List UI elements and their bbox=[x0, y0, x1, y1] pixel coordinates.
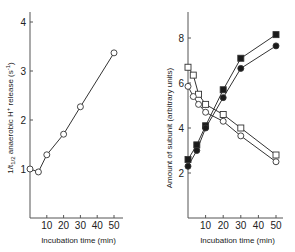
right-x-ticks: 1020304050 bbox=[200, 215, 282, 231]
x-tick-label: 30 bbox=[75, 220, 87, 231]
y-tick-label: 6 bbox=[178, 78, 184, 89]
series-line-open-square bbox=[188, 67, 276, 155]
data-point-open-circle bbox=[203, 109, 209, 115]
x-tick-label: 20 bbox=[218, 220, 230, 231]
figure: 1020304050 1234 Incubation time (min) 1/… bbox=[0, 0, 295, 252]
data-point-open-square bbox=[203, 101, 209, 107]
data-point-filled-circle bbox=[273, 43, 279, 49]
left-x-axis-label: Incubation time (min) bbox=[41, 236, 116, 245]
data-point-filled-circle bbox=[185, 163, 191, 169]
data-point-open-circle bbox=[61, 131, 67, 137]
data-point-open-circle bbox=[27, 166, 33, 172]
data-point-open-circle bbox=[220, 118, 226, 124]
y-tick-label: 2 bbox=[20, 115, 26, 126]
series-line-open-circle bbox=[30, 53, 114, 172]
y-tick-label: 1 bbox=[20, 164, 26, 175]
data-point-open-square bbox=[273, 152, 279, 158]
left-series-group bbox=[27, 50, 117, 175]
data-point-filled-circle bbox=[220, 95, 226, 101]
data-point-filled-square bbox=[220, 87, 226, 93]
left-x-ticks: 1020304050 bbox=[41, 215, 120, 231]
data-point-open-square bbox=[220, 112, 226, 118]
right-y-axis-label: Amount of subunit (arbitrary units) bbox=[165, 67, 174, 188]
data-point-filled-square bbox=[185, 157, 191, 163]
y-tick-label: 4 bbox=[178, 123, 184, 134]
x-tick-label: 10 bbox=[41, 220, 53, 231]
y-tick-label: 3 bbox=[20, 66, 26, 77]
left-panel: 1020304050 1234 Incubation time (min) 1/… bbox=[5, 12, 123, 245]
x-tick-label: 10 bbox=[200, 220, 212, 231]
left-y-axis-label: 1/t1/2 anaerobic H+ release (s-1) bbox=[5, 62, 16, 174]
ylabel-post: release (s bbox=[6, 70, 15, 107]
data-point-filled-circle bbox=[203, 125, 209, 131]
y-tick-label: 2 bbox=[178, 168, 184, 179]
data-point-open-circle bbox=[35, 169, 41, 175]
data-point-filled-circle bbox=[238, 65, 244, 71]
right-panel: 1020304050 2468 Incubation time (min) Am… bbox=[165, 12, 283, 245]
data-point-open-circle bbox=[111, 50, 117, 56]
ylabel-end: ) bbox=[6, 62, 15, 65]
y-tick-label: 4 bbox=[20, 17, 26, 28]
y-tick-label: 8 bbox=[178, 33, 184, 44]
left-y-ticks: 1234 bbox=[20, 17, 33, 175]
right-series-group bbox=[185, 32, 279, 170]
data-point-open-circle bbox=[77, 104, 83, 110]
x-tick-label: 40 bbox=[92, 220, 104, 231]
x-tick-label: 50 bbox=[108, 220, 120, 231]
ylabel-mid: anaerobic H bbox=[6, 111, 15, 157]
data-point-open-circle bbox=[185, 83, 191, 89]
data-point-filled-square bbox=[238, 55, 244, 61]
right-x-axis-label: Incubation time (min) bbox=[200, 236, 275, 245]
data-point-filled-circle bbox=[194, 148, 200, 154]
data-point-open-circle bbox=[238, 133, 244, 139]
data-point-open-square bbox=[238, 125, 244, 131]
data-point-open-square bbox=[185, 64, 191, 70]
x-tick-label: 30 bbox=[235, 220, 247, 231]
x-tick-label: 40 bbox=[253, 220, 265, 231]
data-point-open-circle bbox=[273, 159, 279, 165]
x-tick-label: 50 bbox=[270, 220, 282, 231]
data-point-filled-square bbox=[194, 142, 200, 148]
data-point-open-square bbox=[190, 72, 196, 78]
data-point-filled-square bbox=[273, 32, 279, 38]
data-point-open-circle bbox=[44, 152, 50, 158]
x-tick-label: 20 bbox=[58, 220, 70, 231]
data-point-open-circle bbox=[190, 94, 196, 100]
data-point-open-circle bbox=[196, 101, 202, 107]
